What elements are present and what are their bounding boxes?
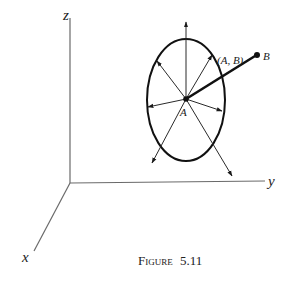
point-B bbox=[254, 52, 260, 58]
z-axis-label: z bbox=[62, 7, 69, 23]
caption-number: 5.11 bbox=[180, 253, 202, 268]
x-axis-label: x bbox=[21, 249, 29, 265]
x-axis bbox=[34, 183, 70, 251]
y-axis bbox=[70, 181, 265, 183]
figure-5-11: z y x A B (A, B) Figure 5.11 bbox=[0, 0, 288, 283]
y-axis-label: y bbox=[266, 173, 275, 189]
radial-arrows bbox=[148, 22, 232, 176]
segment-label: (A, B) bbox=[217, 54, 244, 67]
point-B-label: B bbox=[263, 50, 270, 62]
svg-text:Figure 5.11: Figure 5.11 bbox=[138, 253, 202, 268]
caption-prefix: Figure bbox=[138, 253, 173, 268]
point-A-label: A bbox=[179, 106, 187, 118]
arrow-right bbox=[186, 99, 222, 111]
arrow-upper-left bbox=[157, 61, 186, 99]
coordinate-axes: z y x bbox=[21, 7, 275, 265]
figure-caption: Figure 5.11 bbox=[138, 253, 202, 268]
point-A bbox=[183, 96, 189, 102]
